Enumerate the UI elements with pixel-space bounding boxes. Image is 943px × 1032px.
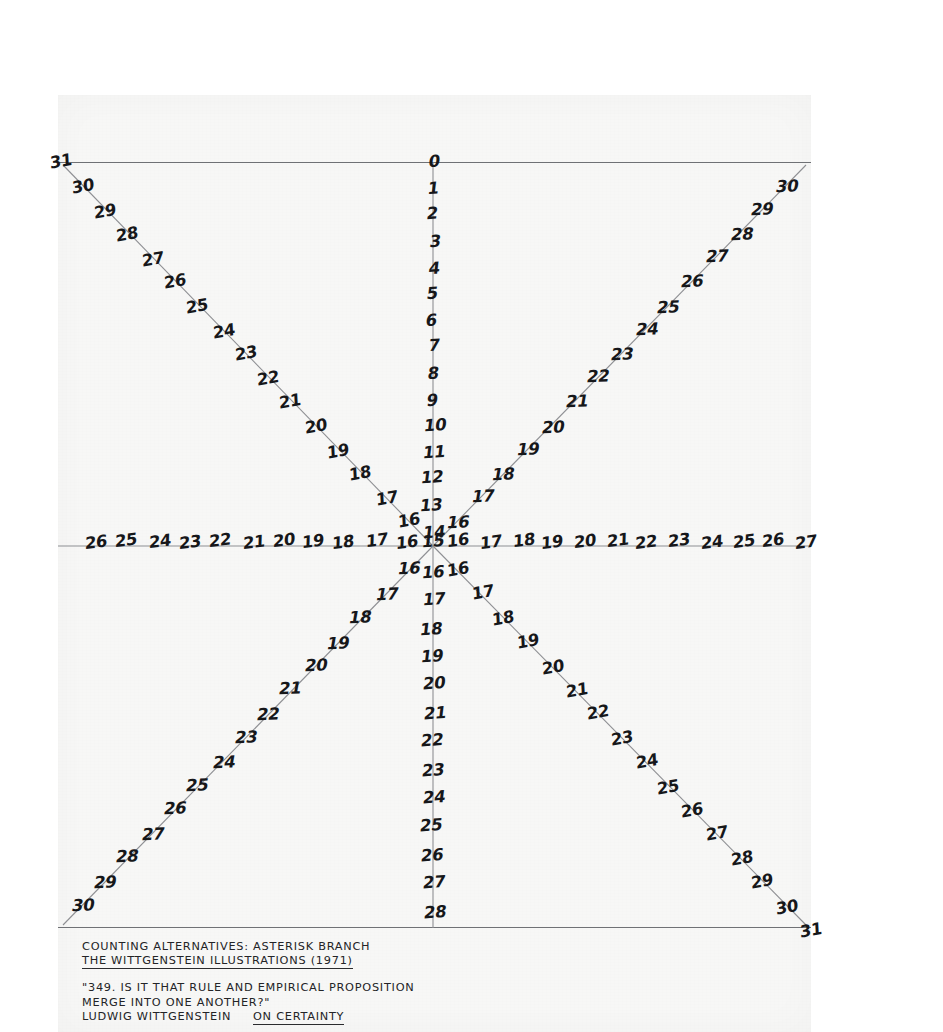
ray-label-upper-left-7: 23 [234, 344, 257, 364]
ray-label-up-6: 8 [426, 365, 439, 382]
ray-label-down-1: 17 [422, 591, 446, 609]
ray-label-left-3: 19 [302, 532, 325, 551]
ray-label-lower-left-11: 27 [141, 826, 166, 843]
ray-label-upper-right-2: 18 [491, 466, 516, 483]
ray-label-upper-right-6: 22 [585, 369, 610, 386]
ray-label-upper-left-4: 20 [305, 416, 328, 436]
ray-label-down-5: 21 [423, 705, 447, 723]
ray-label-upper-right-9: 25 [655, 299, 680, 316]
caption-attribution: LUDWIG WITTGENSTEIN ON CERTAINTY [82, 1010, 782, 1024]
ray-label-upper-left-2: 18 [349, 464, 372, 484]
caption-author: LUDWIG WITTGENSTEIN [82, 1010, 231, 1023]
ray-label-lower-left-13: 29 [92, 874, 117, 891]
ray-label-lower-left-4: 20 [304, 658, 329, 675]
caption-source: ON CERTAINTY [253, 1010, 344, 1025]
ray-label-up-4: 10 [423, 417, 447, 435]
ray-label-lower-right-7: 23 [611, 729, 634, 749]
ray-label-right-2: 18 [513, 532, 536, 551]
ray-label-right-1: 17 [480, 533, 503, 552]
ray-label-down-10: 26 [420, 846, 444, 864]
caption-quote-line2: MERGE INTO ONE ANOTHER?" [82, 996, 782, 1010]
ray-label-lower-left-6: 22 [255, 706, 280, 723]
caption-block: COUNTING ALTERNATIVES: ASTERISK BRANCH T… [82, 940, 782, 1024]
ray-label-upper-left-9: 25 [186, 297, 209, 317]
ray-label-down-12: 28 [423, 904, 447, 922]
ray-label-lower-right-10: 26 [681, 800, 704, 820]
ray-label-upper-right-13: 29 [750, 201, 775, 218]
ray-label-upper-right-3: 19 [515, 441, 540, 458]
ray-label-up-11: 3 [428, 233, 441, 250]
ray-label-lower-right-3: 19 [516, 632, 539, 652]
caption-series: THE WITTGENSTEIN ILLUSTRATIONS (1971) [82, 954, 353, 969]
ray-label-upper-left-13: 29 [93, 202, 116, 222]
ray-label-lower-right-15: 31 [800, 921, 823, 941]
ray-label-upper-left-5: 21 [279, 391, 302, 411]
ray-label-upper-right-12: 28 [729, 226, 754, 243]
ray-label-upper-right-11: 27 [704, 248, 729, 265]
ray-label-left-8: 24 [149, 532, 172, 551]
ray-label-lower-left-12: 28 [114, 849, 139, 866]
ray-label-lower-right-13: 29 [751, 872, 774, 892]
caption-attr-gap [231, 1010, 253, 1023]
ray-label-left-5: 21 [243, 533, 266, 552]
ray-label-lower-left-3: 19 [326, 635, 351, 652]
ray-label-lower-left-9: 25 [185, 777, 210, 794]
caption-spacer [82, 968, 782, 981]
ray-label-upper-left-0: 16 [397, 511, 420, 531]
ray-label-upper-left-12: 28 [116, 224, 139, 244]
ray-label-upper-right-7: 23 [610, 346, 635, 363]
ray-label-lower-left-8: 24 [211, 755, 236, 772]
ray-label-lower-left-1: 17 [374, 586, 399, 603]
ray-label-lower-left-7: 23 [233, 729, 258, 746]
ray-label-up-13: 1 [426, 181, 439, 198]
ray-label-up-12: 2 [425, 205, 438, 222]
ray-label-right-6: 22 [635, 533, 658, 552]
ray-label-upper-left-15: 31 [49, 152, 72, 172]
ray-label-up-1: 13 [419, 496, 443, 514]
ray-label-upper-left-1: 17 [375, 489, 398, 509]
caption-quote-line1: "349. IS IT THAT RULE AND EMPIRICAL PROP… [82, 981, 782, 995]
ray-label-lower-right-14: 30 [775, 898, 798, 918]
ray-label-left-1: 17 [366, 532, 389, 551]
ray-label-upper-right-4: 20 [540, 419, 565, 436]
ray-label-lower-left-2: 18 [348, 609, 373, 626]
ray-label-upper-left-3: 19 [327, 442, 350, 462]
ray-label-upper-left-14: 30 [71, 177, 94, 197]
ray-label-left-4: 20 [272, 531, 295, 550]
asterisk-diagram: 1413121110987654321016171819202122232425… [58, 162, 811, 928]
ray-label-upper-left-11: 27 [142, 249, 165, 269]
ray-label-lower-left-10: 26 [163, 800, 188, 817]
ray-label-left-6: 22 [209, 532, 232, 551]
ray-label-down-7: 23 [421, 762, 445, 780]
ray-label-upper-left-10: 26 [164, 272, 187, 292]
ray-label-down-8: 24 [422, 789, 446, 807]
ray-label-lower-right-4: 20 [541, 657, 564, 677]
ray-label-up-3: 11 [422, 444, 446, 462]
ray-label-down-2: 18 [419, 621, 443, 639]
ray-label-upper-right-1: 17 [470, 489, 495, 506]
ray-label-down-3: 19 [420, 648, 444, 666]
ray-label-upper-left-8: 24 [212, 322, 235, 342]
ray-label-down-6: 22 [420, 732, 444, 750]
ray-label-up-5: 9 [425, 392, 438, 409]
ray-label-down-9: 25 [419, 816, 443, 834]
ray-label-down-4: 20 [422, 675, 446, 693]
ray-label-right-4: 20 [574, 532, 597, 551]
ray-label-upper-right-8: 24 [635, 321, 660, 338]
ray-label-left-10: 26 [85, 533, 108, 552]
ray-label-lower-right-1: 17 [471, 583, 494, 603]
ray-label-lower-left-14: 30 [70, 897, 95, 914]
ray-label-lower-right-11: 27 [706, 823, 729, 843]
caption-series-wrap: THE WITTGENSTEIN ILLUSTRATIONS (1971) [82, 954, 782, 968]
ray-label-right-11: 27 [794, 533, 817, 552]
ray-label-left-0: 16 [396, 533, 419, 552]
ray-label-down-11: 27 [422, 874, 446, 892]
ray-label-upper-right-5: 21 [565, 394, 590, 411]
ray-label-lower-right-2: 18 [492, 609, 515, 629]
ray-label-down-0: 16 [421, 563, 445, 581]
ray-label-lower-right-12: 28 [730, 849, 753, 869]
paper-sheet: 1413121110987654321016171819202122232425… [58, 95, 811, 1032]
ray-label-right-5: 21 [606, 531, 629, 550]
ray-label-right-9: 25 [733, 532, 756, 551]
ray-label-right-0: 16 [447, 531, 470, 550]
